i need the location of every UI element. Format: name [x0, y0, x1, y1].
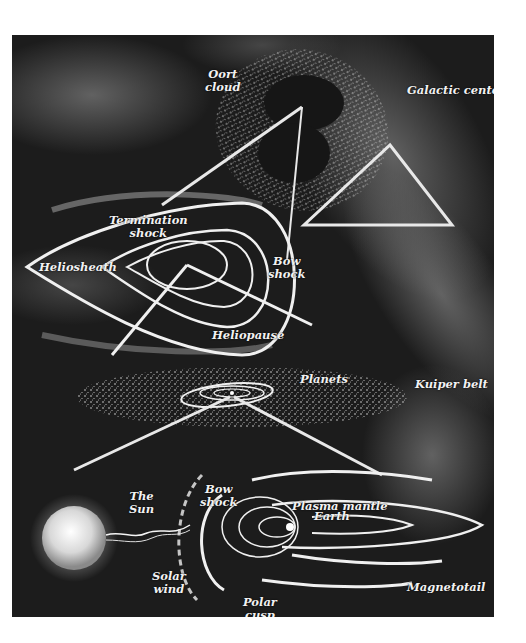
label-the-sun: The Sun — [129, 490, 154, 516]
label-polar-cusp: Polar cusp — [243, 596, 277, 617]
diagram-frame: Oort cloud Galactic center Termination s… — [12, 35, 494, 617]
label-galactic-center: Galactic center — [407, 84, 494, 97]
label-bow-shock-heliosphere: Bow shock — [268, 255, 305, 281]
label-termination-shock: Termination shock — [109, 214, 188, 240]
label-kuiper-belt: Kuiper belt — [415, 378, 488, 391]
label-heliosheath: Heliosheath — [39, 261, 117, 274]
label-earth: Earth — [314, 510, 350, 523]
label-oort-cloud: Oort cloud — [205, 68, 240, 94]
label-bow-shock-earth: Bow shock — [200, 483, 237, 509]
diagram-artwork — [12, 35, 494, 617]
label-solar-wind: Solar wind — [152, 570, 186, 596]
label-heliopause: Heliopause — [212, 329, 284, 342]
label-magnetotail: Magnetotail — [407, 581, 485, 594]
kuiper-belt — [74, 367, 407, 475]
label-planets: Planets — [300, 373, 348, 386]
